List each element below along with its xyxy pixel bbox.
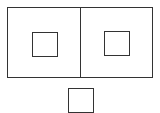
inner-square-right — [105, 32, 130, 56]
outer-rectangle-left-panel — [8, 8, 81, 78]
bottom-square — [69, 89, 94, 113]
diagram-canvas — [0, 0, 160, 113]
outer-rectangle-right-panel — [81, 8, 153, 78]
inner-square-left — [33, 33, 58, 57]
